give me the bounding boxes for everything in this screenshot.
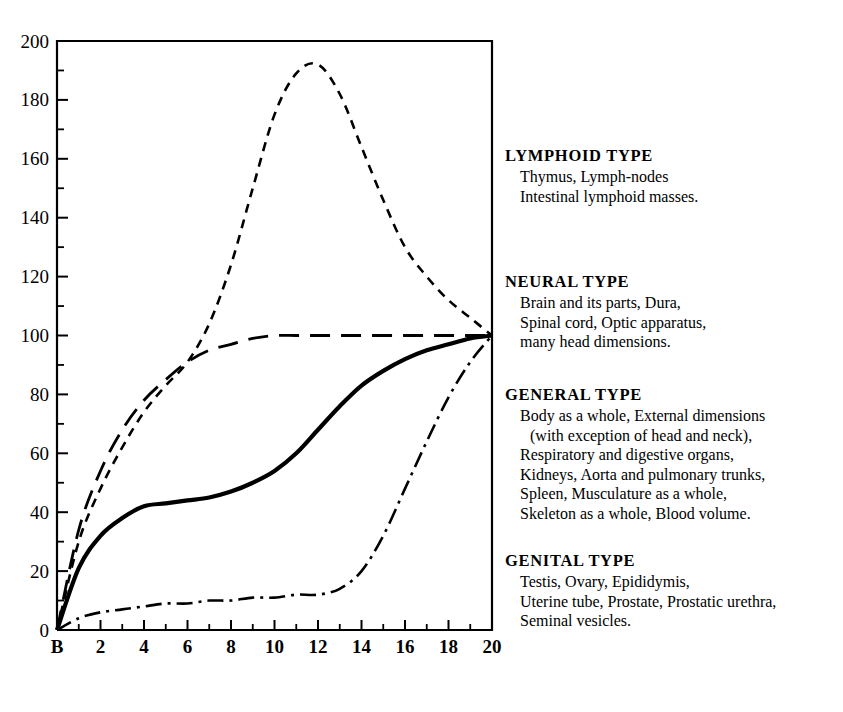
y-tick-label: 160: [21, 148, 50, 169]
legend-line: Respiratory and digestive organs,: [520, 445, 843, 465]
legend-line: Intestinal lymphoid masses.: [520, 187, 843, 207]
curve-lymphoid-type: [57, 63, 492, 630]
y-tick-label: 200: [21, 31, 50, 52]
x-tick-label: 20: [483, 636, 502, 657]
legend-lines-general: Body as a whole, External dimensions (wi…: [505, 406, 843, 523]
legend-line: Brain and its parts, Dura,: [520, 293, 843, 313]
curve-series-group: [57, 63, 492, 630]
legend-lines-lymphoid: Thymus, Lymph-nodes Intestinal lymphoid …: [505, 167, 843, 206]
legend-line: Kidneys, Aorta and pulmonary trunks,: [520, 465, 843, 485]
curve-genital-type: [57, 336, 492, 631]
legend-line: Seminal vesicles.: [520, 611, 843, 631]
plot-frame: [57, 41, 492, 630]
legend-panel: LYMPHOID TYPE Thymus, Lymph-nodes Intest…: [505, 0, 843, 712]
curve-general-type: [57, 336, 492, 631]
legend-line: Uterine tube, Prostate, Prostatic urethr…: [520, 592, 843, 612]
scammon-growth-curves-figure: 020406080100120140160180200 B24681012141…: [0, 0, 843, 712]
legend-title-genital: GENITAL TYPE: [505, 551, 843, 571]
y-tick-label: 120: [21, 266, 50, 287]
x-axis: B2468101214161820: [51, 620, 502, 657]
y-tick-label: 140: [21, 207, 50, 228]
legend-line: Skeleton as a whole, Blood volume.: [520, 504, 843, 524]
legend-block-genital: GENITAL TYPE Testis, Ovary, Epididymis, …: [505, 551, 843, 631]
x-tick-label: 8: [226, 636, 236, 657]
x-tick-label: 6: [183, 636, 193, 657]
y-tick-label: 100: [21, 325, 50, 346]
legend-line: Body as a whole, External dimensions: [520, 406, 843, 426]
legend-line: Spleen, Musculature as a whole,: [520, 484, 843, 504]
legend-line: Spinal cord, Optic apparatus,: [520, 313, 843, 333]
legend-block-lymphoid: LYMPHOID TYPE Thymus, Lymph-nodes Intest…: [505, 146, 843, 206]
legend-lines-genital: Testis, Ovary, Epididymis, Uterine tube,…: [505, 572, 843, 631]
curve-neural-type: [57, 335, 492, 630]
legend-title-neural: NEURAL TYPE: [505, 272, 843, 292]
y-axis: 020406080100120140160180200: [21, 31, 69, 641]
y-tick-label: 40: [30, 502, 49, 523]
y-tick-label: 180: [21, 89, 50, 110]
y-tick-label: 20: [30, 561, 49, 582]
x-tick-label: 14: [352, 636, 372, 657]
x-tick-label: 18: [439, 636, 458, 657]
legend-line: Thymus, Lymph-nodes: [520, 167, 843, 187]
legend-line: many head dimensions.: [520, 332, 843, 352]
legend-block-neural: NEURAL TYPE Brain and its parts, Dura, S…: [505, 272, 843, 352]
legend-line: Testis, Ovary, Epididymis,: [520, 572, 843, 592]
legend-line: (with exception of head and neck),: [520, 426, 843, 446]
x-tick-label: 2: [96, 636, 106, 657]
legend-lines-neural: Brain and its parts, Dura, Spinal cord, …: [505, 293, 843, 352]
y-tick-label: 0: [40, 620, 50, 641]
x-tick-label: 10: [265, 636, 284, 657]
x-tick-label: 12: [309, 636, 328, 657]
x-tick-label: 4: [139, 636, 149, 657]
x-tick-label: 16: [396, 636, 415, 657]
legend-block-general: GENERAL TYPE Body as a whole, External d…: [505, 385, 843, 523]
y-tick-label: 60: [30, 443, 49, 464]
legend-title-general: GENERAL TYPE: [505, 385, 843, 405]
x-tick-label: B: [51, 636, 64, 657]
y-tick-label: 80: [30, 384, 49, 405]
legend-title-lymphoid: LYMPHOID TYPE: [505, 146, 843, 166]
